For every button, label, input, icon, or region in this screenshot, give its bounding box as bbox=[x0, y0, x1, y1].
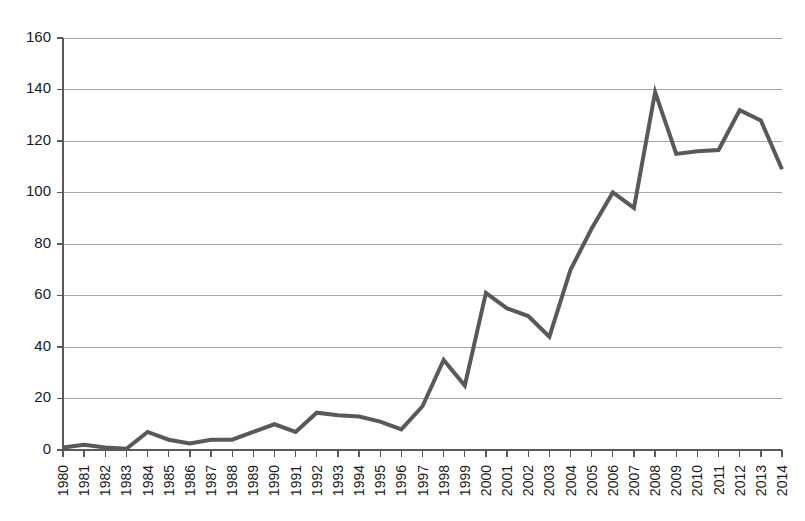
x-tick-label: 1997 bbox=[415, 465, 431, 496]
x-tick-label: 1986 bbox=[182, 465, 198, 496]
x-tick-label: 1985 bbox=[161, 465, 177, 496]
x-tick-label: 2006 bbox=[605, 465, 621, 496]
x-tick-label: 1993 bbox=[330, 465, 346, 496]
data-series-line bbox=[63, 92, 782, 449]
y-tick-label: 140 bbox=[26, 79, 51, 96]
x-tick-label: 2009 bbox=[668, 465, 684, 496]
y-tick-label: 20 bbox=[34, 388, 51, 405]
y-tick-label: 160 bbox=[26, 28, 51, 45]
x-tick-label: 2011 bbox=[711, 465, 727, 495]
x-axis-tick-labels: 1980198119821983198419851986198719881989… bbox=[55, 465, 790, 496]
x-tick-label: 1995 bbox=[372, 465, 388, 496]
x-tick-label: 2013 bbox=[753, 465, 769, 496]
x-tick-label: 1991 bbox=[288, 465, 304, 496]
x-tick-label: 2002 bbox=[520, 465, 536, 496]
x-tick-label: 1992 bbox=[309, 465, 325, 496]
x-tick-label: 1994 bbox=[351, 465, 367, 496]
y-tick-label: 40 bbox=[34, 337, 51, 354]
x-tick-label: 1980 bbox=[55, 465, 71, 496]
y-axis-tick-labels: 020406080100120140160 bbox=[26, 28, 51, 457]
line-chart-figure: 020406080100120140160 198019811982198319… bbox=[0, 0, 805, 521]
y-tick-label: 60 bbox=[34, 285, 51, 302]
x-tick-label: 2008 bbox=[647, 465, 663, 496]
x-tick-label: 2007 bbox=[626, 465, 642, 496]
y-axis-tick-marks bbox=[57, 38, 63, 450]
y-tick-label: 120 bbox=[26, 131, 51, 148]
x-axis-tick-marks bbox=[63, 450, 782, 457]
x-tick-label: 1999 bbox=[457, 465, 473, 496]
x-tick-label: 1981 bbox=[76, 465, 92, 496]
x-tick-label: 2014 bbox=[774, 465, 790, 496]
x-tick-label: 2001 bbox=[499, 465, 515, 496]
x-tick-label: 1987 bbox=[203, 465, 219, 496]
y-tick-label: 80 bbox=[34, 234, 51, 251]
x-tick-label: 2000 bbox=[478, 465, 494, 496]
gridlines bbox=[63, 38, 782, 399]
x-tick-label: 1990 bbox=[266, 465, 282, 496]
chart-canvas: 020406080100120140160 198019811982198319… bbox=[0, 0, 805, 521]
y-tick-label: 100 bbox=[26, 182, 51, 199]
x-tick-label: 1989 bbox=[245, 465, 261, 496]
x-tick-label: 2004 bbox=[563, 465, 579, 496]
y-tick-label: 0 bbox=[43, 440, 51, 457]
x-tick-label: 2003 bbox=[541, 465, 557, 496]
x-tick-label: 1988 bbox=[224, 465, 240, 496]
x-tick-label: 1998 bbox=[436, 465, 452, 496]
x-tick-label: 2005 bbox=[584, 465, 600, 496]
x-tick-label: 1983 bbox=[118, 465, 134, 496]
x-tick-label: 1984 bbox=[140, 465, 156, 496]
x-tick-label: 1982 bbox=[97, 465, 113, 496]
x-tick-label: 1996 bbox=[393, 465, 409, 496]
x-tick-label: 2010 bbox=[689, 465, 705, 496]
x-tick-label: 2012 bbox=[732, 465, 748, 496]
